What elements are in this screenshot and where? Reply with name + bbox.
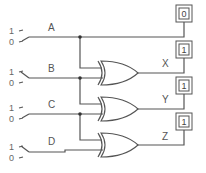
- switch-c[interactable]: 1 0: [9, 103, 29, 124]
- output-label-y: Y: [162, 94, 169, 105]
- output-value-a: 0: [182, 9, 187, 19]
- output-display-x: 1: [176, 41, 192, 58]
- output-value-y: 1: [182, 81, 187, 91]
- switch-a-label-1: 1: [9, 26, 14, 36]
- output-label-x: X: [162, 58, 169, 69]
- switch-c-label-0: 0: [9, 114, 14, 124]
- input-label-d: D: [48, 136, 55, 147]
- wires: [29, 22, 184, 152]
- output-value-z: 1: [182, 117, 187, 127]
- output-value-x: 1: [182, 45, 187, 55]
- xor-gate-y: [98, 97, 138, 121]
- switch-b-label-1: 1: [9, 67, 14, 77]
- input-label-b: B: [48, 63, 55, 74]
- switch-b-label-0: 0: [9, 78, 14, 88]
- input-label-c: C: [48, 99, 55, 110]
- switch-d-label-0: 0: [9, 153, 14, 163]
- output-display-a: 0: [176, 5, 192, 22]
- output-label-z: Z: [162, 131, 168, 142]
- output-display-z: 1: [176, 113, 192, 130]
- switch-d[interactable]: 1 0: [9, 142, 29, 163]
- logic-circuit-diagram: 1 0 1 0 1 0 1 0 A B C D: [0, 0, 206, 173]
- switch-d-label-1: 1: [9, 142, 14, 152]
- xor-gate-x: [98, 61, 138, 85]
- switch-b[interactable]: 1 0: [9, 67, 29, 88]
- switch-a-label-0: 0: [9, 37, 14, 47]
- xor-gate-z: [98, 133, 138, 157]
- switch-a[interactable]: 1 0: [9, 26, 29, 47]
- output-display-y: 1: [176, 77, 192, 94]
- input-label-a: A: [48, 22, 55, 33]
- switch-c-label-1: 1: [9, 103, 14, 113]
